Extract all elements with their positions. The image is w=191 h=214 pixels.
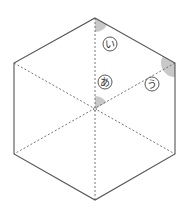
label-u-text: う (147, 79, 157, 90)
label-a: あ (98, 75, 112, 89)
hexagon-diagram: あ い う (0, 0, 191, 214)
label-i-text: い (105, 39, 115, 50)
label-u: う (145, 77, 159, 91)
center-point (94, 108, 97, 111)
label-i: い (103, 37, 117, 51)
label-a-text: あ (100, 77, 110, 88)
angle-mark-i (95, 18, 107, 32)
